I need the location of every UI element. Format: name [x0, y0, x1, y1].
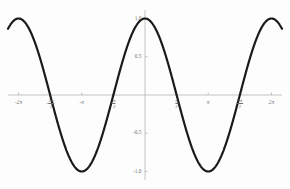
fraction-denominator: 2	[175, 104, 178, 109]
x-tick-label: 2π	[269, 100, 274, 106]
fraction: 3π2	[237, 98, 243, 109]
x-tick-label: π	[207, 100, 210, 106]
x-tick-label: -3π2	[46, 98, 54, 109]
y-tick-label: -0.5	[0, 130, 142, 136]
x-tick-label: 3π2	[237, 98, 243, 109]
fraction-numerator: π	[175, 98, 178, 103]
fraction-numerator: π	[113, 98, 116, 103]
y-tick-label: 0.5	[0, 54, 142, 60]
cosine-plot: -2π-3π2-π-π2π2π3π22π 1.00.5-0.5-1.0	[0, 0, 290, 189]
fraction-denominator: 2	[48, 104, 54, 109]
y-tick-label: -1.0	[0, 169, 142, 175]
fraction-denominator: 2	[113, 104, 116, 109]
x-tick-label: -π	[80, 100, 85, 106]
fraction: π2	[113, 98, 116, 109]
plot-canvas	[0, 0, 290, 189]
fraction: 3π2	[48, 98, 54, 109]
x-tick-label: π2	[175, 98, 178, 109]
x-tick-label: -π2	[111, 98, 116, 109]
fraction-numerator: 3π	[237, 98, 243, 103]
fraction-denominator: 2	[237, 104, 243, 109]
y-tick-label: 1.0	[0, 16, 142, 22]
fraction-numerator: 3π	[48, 98, 54, 103]
fraction: π2	[175, 98, 178, 109]
x-tick-label: -2π	[15, 100, 22, 106]
